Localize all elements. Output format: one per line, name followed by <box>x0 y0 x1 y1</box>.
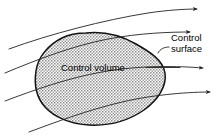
control-volume-shape <box>35 33 165 126</box>
control-volume-label: Control volume <box>61 62 125 73</box>
control-surface-label-line1: Control <box>171 32 202 43</box>
control-surface-label-line2: surface <box>171 43 202 54</box>
control-surface-leader <box>158 47 169 53</box>
diagram-canvas: Control volume Control surface <box>0 0 222 139</box>
control-surface-boundary <box>35 33 165 126</box>
control-surface-annotation: Control surface <box>158 32 202 54</box>
control-volume-figure: Control volume Control surface <box>0 0 222 139</box>
